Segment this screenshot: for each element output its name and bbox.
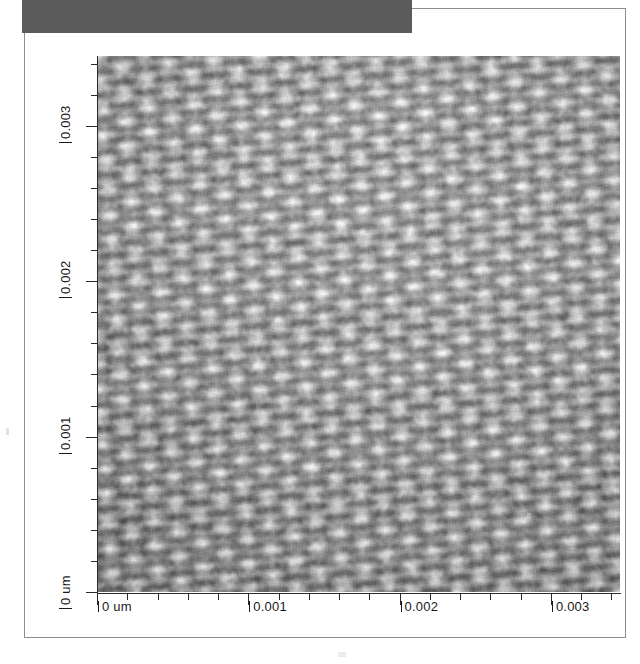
x-tick-minor <box>611 593 612 600</box>
afm-scan-image <box>98 56 620 592</box>
y-tick-minor <box>91 530 98 531</box>
y-tick-minor <box>91 188 98 189</box>
afm-scan-plot <box>98 56 620 592</box>
x-tick-minor <box>460 593 461 600</box>
y-tick-minor <box>91 468 98 469</box>
y-tick-minor <box>91 499 98 500</box>
y-tick-minor <box>91 406 98 407</box>
y-tick-minor <box>91 95 98 96</box>
y-tick-major <box>86 126 98 127</box>
document-page: 0.0030.0020.0010 um 0 um0.0010.0020.003 <box>24 8 626 638</box>
afm-heatmap-canvas <box>98 56 620 592</box>
y-axis-line <box>97 56 98 593</box>
x-tick-minor <box>369 593 370 600</box>
x-axis-line <box>97 593 621 594</box>
redaction-header-block <box>22 0 412 33</box>
x-axis-label: 0.002 <box>401 599 439 614</box>
x-axis-label: 0 um <box>98 599 132 614</box>
y-tick-minor <box>91 157 98 158</box>
x-tick-minor <box>218 593 219 600</box>
y-tick-minor <box>91 343 98 344</box>
y-tick-minor <box>91 250 98 251</box>
x-tick-minor <box>188 593 189 600</box>
x-tick-minor <box>158 593 159 600</box>
y-axis-label: 0.002 <box>58 261 73 295</box>
x-tick-minor <box>309 593 310 600</box>
y-tick-major <box>86 437 98 438</box>
x-tick-minor <box>521 593 522 600</box>
y-tick-major <box>86 281 98 282</box>
y-tick-minor <box>91 64 98 65</box>
y-axis-label: 0 um <box>58 575 73 605</box>
y-tick-minor <box>91 561 98 562</box>
scan-artifact-right <box>527 513 531 519</box>
x-tick-minor <box>490 593 491 600</box>
y-axis-label: 0.001 <box>58 416 73 450</box>
y-tick-minor <box>91 374 98 375</box>
x-axis-label: 0.003 <box>552 599 590 614</box>
y-tick-minor <box>91 219 98 220</box>
scan-artifact-below <box>338 652 346 657</box>
x-axis-label: 0.001 <box>249 599 287 614</box>
scan-artifact-left <box>6 428 9 435</box>
x-tick-minor <box>339 593 340 600</box>
y-tick-minor <box>91 312 98 313</box>
y-axis-label: 0.003 <box>58 105 73 139</box>
